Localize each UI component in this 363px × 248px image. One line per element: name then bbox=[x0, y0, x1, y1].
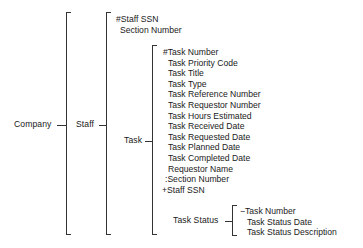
staff-bracket bbox=[106, 12, 107, 235]
task-attr-priority-code: Task Priority Code bbox=[163, 58, 261, 69]
task-attr-completed-date: Task Completed Date bbox=[163, 153, 261, 164]
task-attr-requestor-number: Task Requestor Number bbox=[163, 100, 261, 111]
staff-label: Staff bbox=[76, 119, 94, 129]
task-connector bbox=[145, 141, 152, 142]
task-attr-received-date: Task Received Date bbox=[163, 121, 261, 132]
task-attr-hours-estimated: Task Hours Estimated bbox=[163, 111, 261, 122]
task-bracket bbox=[152, 45, 153, 235]
task-attr-requestor-name: Requestor Name bbox=[163, 164, 261, 175]
task-status-attributes: −Task Number Task Status Date Task Statu… bbox=[240, 206, 337, 238]
staff-attr-staff-ssn: #Staff SSN bbox=[116, 14, 182, 25]
task-status-attr-status-date: Task Status Date bbox=[240, 217, 337, 228]
task-status-attr-status-description: Task Status Description bbox=[240, 227, 337, 238]
staff-attr-section-number: Section Number bbox=[116, 25, 182, 36]
task-attributes: #Task Number Task Priority Code Task Tit… bbox=[163, 47, 261, 195]
company-bracket bbox=[66, 12, 67, 235]
task-attr-staff-ssn: +Staff SSN bbox=[162, 185, 261, 196]
task-status-bracket bbox=[232, 205, 233, 236]
task-attr-title: Task Title bbox=[163, 68, 261, 79]
staff-connector bbox=[99, 125, 106, 126]
task-attr-section-number: :Section Number bbox=[163, 174, 261, 185]
task-status-connector bbox=[225, 221, 232, 222]
task-attr-planned-date: Task Planned Date bbox=[163, 142, 261, 153]
task-status-label: Task Status bbox=[173, 215, 219, 225]
staff-attributes: #Staff SSN Section Number bbox=[116, 14, 182, 35]
task-label: Task bbox=[124, 135, 142, 145]
task-attr-task-number: #Task Number bbox=[163, 47, 261, 58]
company-connector bbox=[57, 125, 66, 126]
task-attr-requested-date: Task Requested Date bbox=[163, 132, 261, 143]
task-attr-type: Task Type bbox=[163, 79, 261, 90]
task-status-attr-task-number: −Task Number bbox=[240, 206, 337, 217]
task-attr-reference-number: Task Reference Number bbox=[163, 89, 261, 100]
company-label: Company bbox=[14, 119, 51, 129]
